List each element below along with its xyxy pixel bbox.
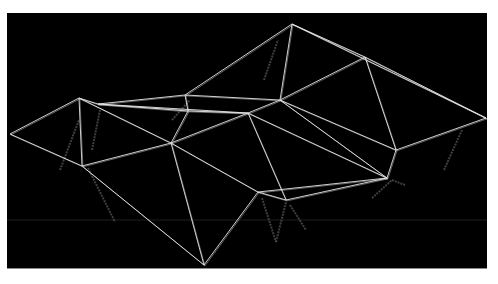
mesh-edge <box>185 95 280 100</box>
mesh-edge <box>366 58 397 151</box>
mesh-edge <box>98 104 248 113</box>
mesh-edge <box>186 96 281 101</box>
shadow-strut <box>88 168 115 222</box>
mesh-edge <box>11 135 83 167</box>
mesh-edge <box>98 95 185 104</box>
wireframe-mesh <box>7 13 487 268</box>
mesh-edge <box>248 113 387 178</box>
mesh-edge <box>281 58 366 101</box>
shadow-strut <box>392 180 405 185</box>
mesh-edge <box>388 151 397 179</box>
mesh-edge <box>83 144 172 167</box>
mesh-edge <box>396 118 486 150</box>
mesh-edge <box>387 150 396 178</box>
mesh-edge <box>171 111 188 143</box>
mesh-edge <box>205 193 259 266</box>
shadow-strut <box>92 110 100 150</box>
mesh-edge <box>186 25 293 96</box>
mesh-edge <box>171 143 204 265</box>
shadow-strut <box>290 205 306 230</box>
mesh-edge <box>11 99 80 135</box>
mesh-edge <box>185 24 292 95</box>
mesh-edge <box>172 114 249 144</box>
mesh-edge <box>99 96 186 105</box>
mesh-edge <box>249 114 287 201</box>
mesh-edge <box>280 57 365 100</box>
mesh-edge <box>248 113 286 200</box>
mesh-edge <box>286 178 387 200</box>
mesh-edge <box>293 25 487 119</box>
mesh-edge <box>172 144 205 266</box>
shadow-strut <box>60 120 79 170</box>
mesh-edge <box>204 192 258 265</box>
shadow-strut <box>444 130 462 170</box>
mesh-edge <box>83 167 205 266</box>
mesh-edge <box>82 143 171 166</box>
mesh-edge <box>248 100 280 113</box>
mesh-edge <box>172 144 259 193</box>
shadow-strut <box>276 202 286 242</box>
mesh-edge <box>79 98 171 143</box>
mesh-edge <box>280 24 292 100</box>
shadow-strut <box>372 180 392 198</box>
mesh-edge <box>249 101 281 114</box>
mesh-edge <box>281 25 293 101</box>
shadow-strut <box>264 40 278 80</box>
render-viewport <box>7 13 487 269</box>
mesh-edge <box>10 98 79 134</box>
mesh-edge <box>397 119 487 151</box>
mesh-edge <box>366 58 487 119</box>
mesh-edge <box>171 113 248 143</box>
mesh-edge <box>249 114 388 179</box>
